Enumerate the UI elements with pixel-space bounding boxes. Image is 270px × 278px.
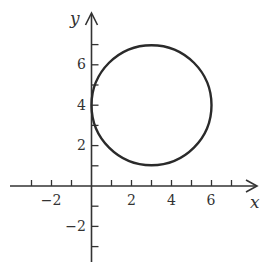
x-tick-label-4: 4 (167, 192, 176, 208)
x-axis-label: x (250, 192, 260, 212)
x-ticks (32, 180, 232, 186)
y-tick-label-4: 4 (77, 97, 86, 113)
y-ticks (92, 45, 99, 247)
coordinate-plane: −2 2 4 6 2 4 6 −2 x y (0, 0, 270, 278)
x-tick-label-2: 2 (127, 192, 136, 208)
x-tick-label-6: 6 (207, 192, 216, 208)
y-tick-label-2: 2 (77, 137, 86, 153)
x-tick-label-neg2: −2 (41, 192, 62, 208)
circle-curve (92, 45, 212, 165)
y-tick-label-6: 6 (77, 56, 86, 72)
y-axis-label: y (69, 8, 80, 28)
y-tick-label-neg2: −2 (65, 218, 86, 234)
